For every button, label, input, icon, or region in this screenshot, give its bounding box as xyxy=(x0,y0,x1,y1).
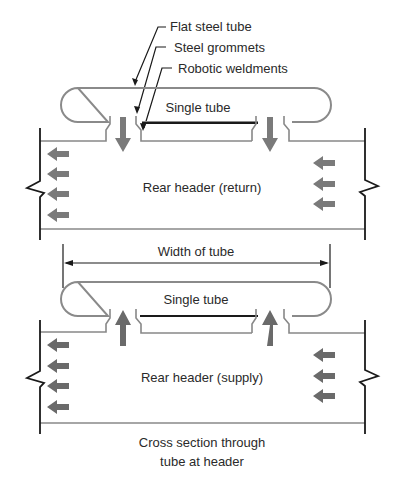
arrow-left-icon xyxy=(47,359,69,373)
right-break-line xyxy=(360,320,378,434)
bottom-header-label: Rear header (supply) xyxy=(141,370,263,385)
top-left-flow-arrows xyxy=(47,147,69,222)
top-tube: Single tube xyxy=(61,88,331,122)
bottom-grommets xyxy=(40,309,365,333)
arrow-up-icon xyxy=(115,310,131,346)
bottom-tube-label: Single tube xyxy=(163,292,228,307)
bottom-right-flow-arrows xyxy=(313,348,335,403)
arrow-left-icon xyxy=(47,379,69,393)
arrow-left-icon xyxy=(47,338,69,352)
top-grommets xyxy=(40,116,365,141)
left-break-line xyxy=(27,128,44,240)
arrow-left-icon xyxy=(313,348,335,362)
arrow-left-icon xyxy=(47,187,69,201)
arrow-left-icon xyxy=(47,167,69,181)
arrow-left-icon xyxy=(47,400,69,414)
dimension-arrow-right-icon xyxy=(320,260,329,266)
top-tube-label: Single tube xyxy=(165,100,230,115)
arrow-down-icon xyxy=(262,117,278,152)
caption-line-1: Cross section through xyxy=(139,435,265,450)
left-break-line xyxy=(27,320,44,434)
arrow-left-icon xyxy=(313,369,335,383)
leader-arrowhead-icon xyxy=(132,78,138,86)
top-header-label: Rear header (return) xyxy=(143,180,262,195)
label-flat-steel-tube: Flat steel tube xyxy=(170,19,252,34)
arrow-left-icon xyxy=(313,156,335,170)
dimension-arrow-left-icon xyxy=(64,260,73,266)
top-right-flow-arrows xyxy=(313,156,335,211)
arrow-up-icon xyxy=(262,310,278,346)
width-of-tube-label: Width of tube xyxy=(158,244,235,259)
bottom-left-flow-arrows xyxy=(47,338,69,414)
arrow-down-icon xyxy=(115,117,131,152)
arrow-left-icon xyxy=(313,197,335,211)
arrow-left-icon xyxy=(47,147,69,161)
header-cross-section-diagram: Flat steel tube Steel grommets Robotic w… xyxy=(0,0,403,485)
right-break-line xyxy=(360,128,378,240)
callout-robotic-weldments: Robotic weldments xyxy=(140,61,288,131)
arrow-left-icon xyxy=(47,208,69,222)
label-robotic-weldments: Robotic weldments xyxy=(178,61,288,76)
arrow-left-icon xyxy=(313,177,335,191)
bottom-tube: Single tube xyxy=(61,282,331,316)
leader-arrowhead-icon xyxy=(134,106,140,114)
label-steel-grommets: Steel grommets xyxy=(174,40,266,55)
caption-line-2: tube at header xyxy=(160,454,245,469)
arrow-left-icon xyxy=(313,389,335,403)
